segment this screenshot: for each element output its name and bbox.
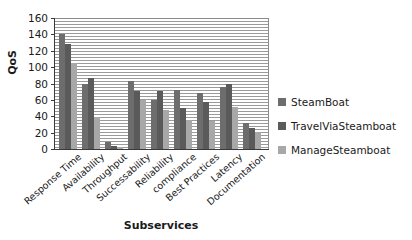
legend-label: TravelViaSteamboat: [291, 120, 396, 132]
y-tick-mark: [51, 149, 55, 150]
plot-area: [54, 18, 269, 150]
bar: [186, 120, 192, 149]
y-tick-mark: [51, 67, 55, 68]
legend-label: SteamBoat: [291, 96, 349, 108]
y-tick-label: 120: [28, 46, 48, 56]
legend-swatch-icon: [278, 122, 286, 130]
y-tick-label: 140: [28, 29, 48, 39]
legend-item[interactable]: ManageSteamboat: [278, 138, 410, 162]
legend-item[interactable]: TravelViaSteamboat: [278, 114, 410, 138]
legend-swatch-icon: [278, 98, 286, 106]
y-tick-mark: [51, 51, 55, 52]
y-tick-label: 20: [35, 128, 48, 138]
bar: [232, 107, 238, 149]
bar: [255, 132, 261, 149]
y-tick-mark: [51, 100, 55, 101]
bar-group: [105, 18, 128, 149]
bar: [140, 100, 146, 149]
bar: [163, 110, 169, 149]
y-tick-label: 60: [35, 95, 48, 105]
x-axis-title: Subservices: [54, 219, 268, 232]
bar-group: [82, 18, 105, 149]
x-axis-tick-labels: Response TimeAvailabilityThroughputSucce…: [54, 151, 268, 211]
bar: [71, 63, 77, 149]
y-tick-mark: [51, 18, 55, 19]
bar-group: [128, 18, 151, 149]
bar: [117, 147, 123, 149]
bar-chart-figure: QoS 160140120100806040200 Response TimeA…: [0, 0, 412, 240]
bar-group: [174, 18, 197, 149]
bar-group: [243, 18, 266, 149]
bar: [94, 117, 100, 149]
bar-group: [151, 18, 174, 149]
y-tick-mark: [51, 34, 55, 35]
legend-item[interactable]: SteamBoat: [278, 90, 410, 114]
bar: [209, 121, 215, 149]
legend-label: ManageSteamboat: [291, 144, 390, 156]
y-axis-tick-labels: 160140120100806040200: [22, 12, 48, 152]
legend: SteamBoatTravelViaSteamboatManageSteambo…: [278, 90, 410, 162]
y-tick-label: 40: [35, 111, 48, 121]
y-tick-mark: [51, 116, 55, 117]
y-tick-label: 160: [28, 13, 48, 23]
legend-swatch-icon: [278, 146, 286, 154]
bar-group: [220, 18, 243, 149]
y-tick-mark: [51, 84, 55, 85]
bar-group: [59, 18, 82, 149]
y-axis-title: QoS: [6, 50, 22, 75]
y-tick-label: 80: [35, 79, 48, 89]
bar-group: [197, 18, 220, 149]
y-tick-label: 100: [28, 62, 48, 72]
y-tick-label: 0: [41, 144, 48, 154]
bar-groups: [55, 18, 269, 149]
y-tick-mark: [51, 133, 55, 134]
